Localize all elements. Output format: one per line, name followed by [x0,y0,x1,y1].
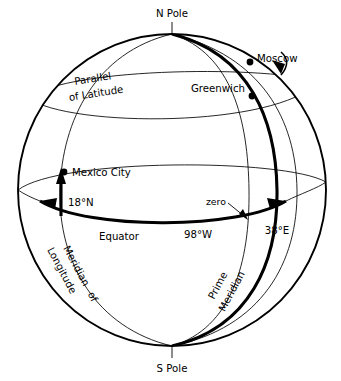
mexico-city-label: Mexico City [72,167,131,178]
north-pole-label: N Pole [156,8,188,19]
longitude-west-label: 98°W [184,229,212,240]
equator-label: Equator [99,231,140,242]
greenwich-dot [249,93,256,100]
south-pole-label: S Pole [157,363,188,374]
latitude-arrow-label: 18°N [68,197,94,208]
longitude-east-label: 38°E [265,225,290,236]
zero-label: zero [206,196,226,207]
sphere-outline [18,34,326,346]
moscow-dot [247,59,254,66]
mexico-city-dot [61,169,68,176]
moscow-label: Moscow [257,53,298,64]
globe-svg: N Pole S Pole Moscow Greenwich Mexico Ci… [0,0,341,381]
greenwich-label: Greenwich [191,83,245,94]
globe-diagram: N Pole S Pole Moscow Greenwich Mexico Ci… [0,0,341,381]
